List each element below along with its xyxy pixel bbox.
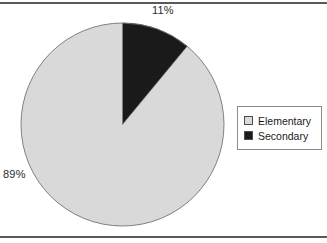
- bottom-divider-rule: [0, 236, 327, 238]
- pie-chart-plot-area: [20, 22, 225, 227]
- legend-item-secondary: Secondary: [244, 128, 316, 143]
- pie-chart-svg: [20, 22, 225, 227]
- pie-chart-figure: 11% 89% Elementary Secondary: [0, 0, 327, 243]
- chart-legend: Elementary Secondary: [237, 106, 322, 150]
- elementary-swatch-icon: [244, 116, 253, 125]
- data-label-secondary-percent: 11%: [152, 4, 174, 16]
- secondary-swatch-icon: [244, 131, 253, 140]
- legend-item-elementary: Elementary: [244, 113, 316, 128]
- legend-label-elementary: Elementary: [258, 115, 311, 127]
- legend-label-secondary: Secondary: [258, 130, 308, 142]
- data-label-elementary-percent: 89%: [3, 168, 26, 180]
